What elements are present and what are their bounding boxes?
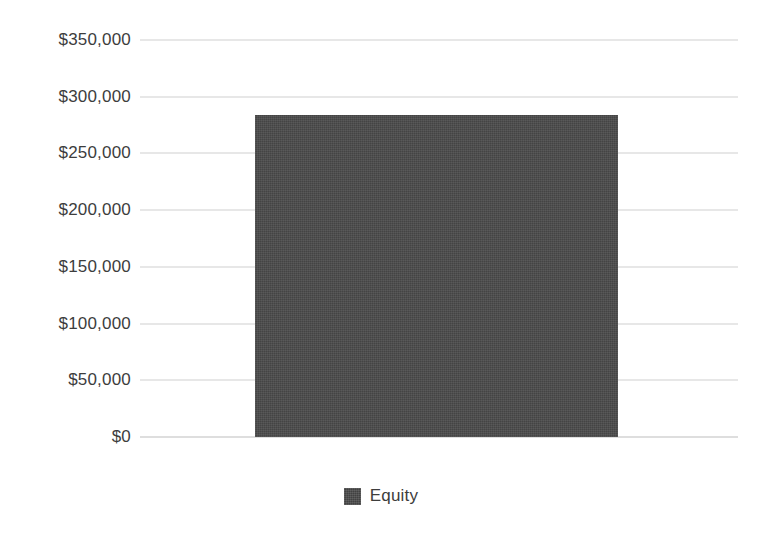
- bar-chart: $350,000 $300,000 $250,000 $200,000 $150…: [0, 0, 762, 539]
- plot-area: [140, 40, 738, 437]
- y-axis-tick-label: $250,000: [6, 143, 131, 163]
- y-axis-tick-labels: $350,000 $300,000 $250,000 $200,000 $150…: [0, 40, 131, 437]
- y-axis-tick-label: $200,000: [6, 200, 131, 220]
- y-axis-tick-label: $300,000: [6, 87, 131, 107]
- legend-item-equity[interactable]: Equity: [344, 486, 418, 506]
- gridline: [140, 40, 738, 41]
- y-axis-tick-label: $350,000: [6, 30, 131, 50]
- legend-item-label: Equity: [370, 486, 418, 506]
- gridline: [140, 96, 738, 97]
- y-axis-tick-label: $100,000: [6, 314, 131, 334]
- y-axis-tick-label: $150,000: [6, 257, 131, 277]
- y-axis-tick-label: $50,000: [6, 370, 131, 390]
- legend-swatch-icon: [344, 488, 361, 505]
- bar-equity[interactable]: [255, 115, 618, 437]
- chart-legend: Equity: [0, 486, 762, 506]
- y-axis-tick-label: $0: [6, 427, 131, 447]
